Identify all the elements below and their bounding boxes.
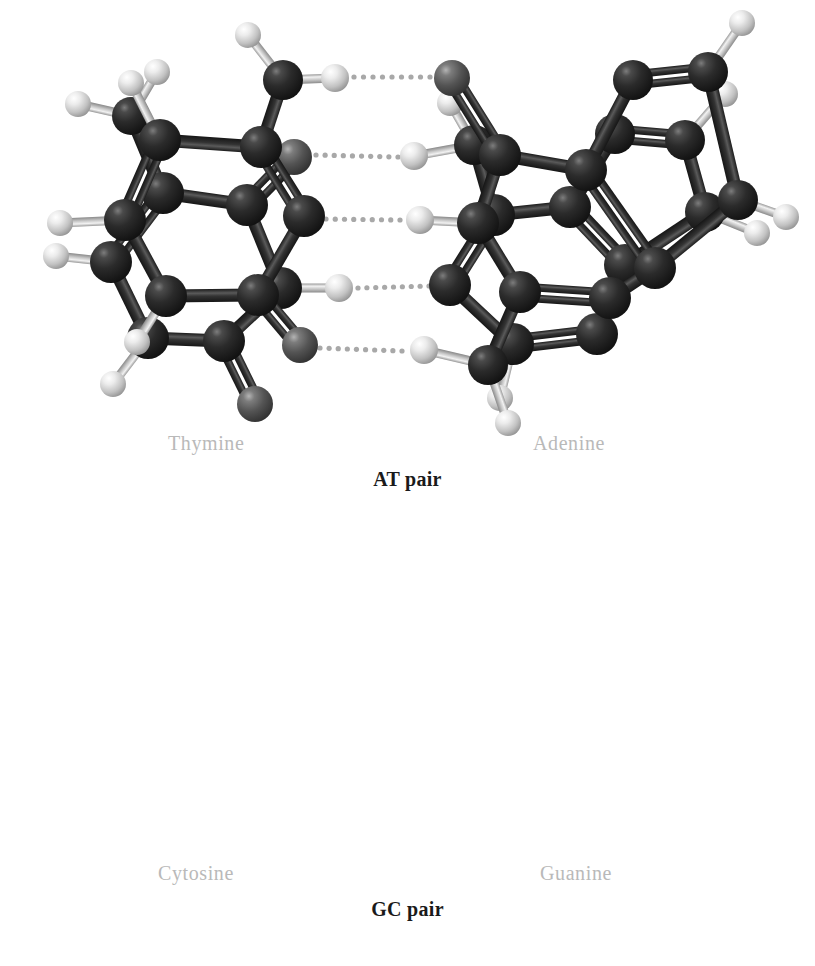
nitrogen-atom [457,202,499,244]
hydrogen-atom [321,64,349,92]
dna-base-pair-figure: Thymine Adenine AT pair Cytosine Guanine… [0,0,815,966]
hydrogen-bond-dot [317,345,322,350]
nitrogen-atom [718,180,758,220]
gc-pair-panel: Cytosine Guanine GC pair [0,490,815,966]
nitrogen-atom [589,277,631,319]
hydrogen-atom [495,410,521,436]
hydrogen-bond-dot [427,74,432,79]
hydrogen-bond-dot [354,347,359,352]
hydrogen-bond-dot [345,346,350,351]
hydrogen-atom [124,329,150,355]
nitrogen-atom [468,345,508,385]
hydrogen-bond-dot [390,348,395,353]
hydrogen-bond-dot [361,74,366,79]
hydrogen-atom [235,22,261,48]
hydrogen-bond-dot [372,347,377,352]
hydrogen-bond-dot [360,217,365,222]
hydrogen-bond-dot [389,74,394,79]
carbon-atom [237,274,279,316]
hydrogen-bond-dot [370,217,375,222]
hydrogen-atom [47,210,73,236]
gc-pair-structure [0,0,815,440]
nitrogen-atom [263,60,303,100]
carbon-atom [240,126,282,168]
hydrogen-bond-dot [379,217,384,222]
carbon-atom [499,271,541,313]
cytosine-label: Cytosine [158,862,234,885]
hydrogen-bond-dot [380,74,385,79]
at-pair-caption: AT pair [0,468,815,491]
hydrogen-atom [406,206,434,234]
hydrogen-bond-dot [351,217,356,222]
hydrogen-atom [118,70,144,96]
nitrogen-atom [283,195,325,237]
hydrogen-bond-dot [363,347,368,352]
hydrogen-bond-dot [381,348,386,353]
guanine-label: Guanine [540,862,612,885]
hydrogen-bond-dot [399,348,404,353]
oxygen-atom [434,60,470,96]
carbon-atom [139,119,181,161]
hydrogen-atom [729,10,755,36]
hydrogen-atom [410,336,438,364]
nitrogen-atom [613,60,653,100]
hydrogen-bond-dot [351,74,356,79]
hydrogen-bond-dot [336,346,341,351]
hydrogen-bond-dot [327,346,332,351]
hydrogen-bond-dot [333,217,338,222]
nitrogen-atom [145,275,187,317]
hydrogen-atom [773,204,799,230]
carbon-atom [688,52,728,92]
hydrogen-bond-dot [399,74,404,79]
hydrogen-bond-dot [370,74,375,79]
carbon-atom [565,149,607,191]
gc-pair-caption: GC pair [0,898,815,921]
hydrogen-bond-dot [418,74,423,79]
oxygen-atom [282,327,318,363]
hydrogen-bond-dot [408,74,413,79]
hydrogen-bond-dot [342,217,347,222]
hydrogen-bond-dot [388,217,393,222]
carbon-atom [479,134,521,176]
hydrogen-bond-dot [397,217,402,222]
carbon-atom [634,247,676,289]
carbon-atom [104,199,146,241]
